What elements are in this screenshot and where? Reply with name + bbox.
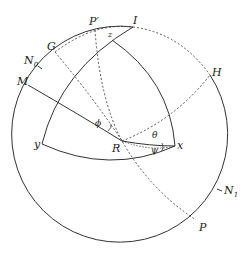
label-N1-sub: 1	[234, 191, 238, 199]
label-theta: θ	[152, 130, 158, 140]
label-P: P	[198, 221, 207, 234]
label-M: M	[16, 75, 29, 88]
diagram-canvas: I P′ z G N0 M H y R x θ ψ ϕ N1 P	[0, 0, 246, 262]
arc-z-x	[112, 40, 175, 146]
label-N0: N0	[23, 54, 39, 69]
label-N0-main: N	[23, 54, 34, 67]
dashed-Pprime-P	[95, 30, 196, 220]
label-G: G	[47, 40, 56, 53]
label-H: H	[211, 66, 222, 79]
label-phi: ϕ	[95, 118, 101, 128]
dashed-G-R	[55, 52, 122, 141]
great-circle-GH-dashed	[55, 26, 210, 75]
label-N1-main: N	[223, 184, 234, 197]
label-N0-sub: 0	[34, 61, 39, 69]
phi-angle-mark	[108, 124, 111, 131]
label-R: R	[111, 142, 120, 155]
psi-angle-mark	[162, 143, 163, 151]
label-P-prime: P′	[88, 15, 99, 28]
label-psi: ψ	[151, 145, 159, 155]
N1-tick	[217, 189, 222, 191]
label-N1: N1	[223, 184, 238, 199]
label-z: z	[107, 30, 113, 39]
N0-tick	[38, 66, 42, 69]
outer-circle-solid	[12, 26, 228, 242]
label-I: I	[132, 14, 138, 27]
label-x: x	[177, 139, 184, 152]
label-y: y	[33, 138, 41, 151]
dashed-R-H	[122, 75, 210, 141]
